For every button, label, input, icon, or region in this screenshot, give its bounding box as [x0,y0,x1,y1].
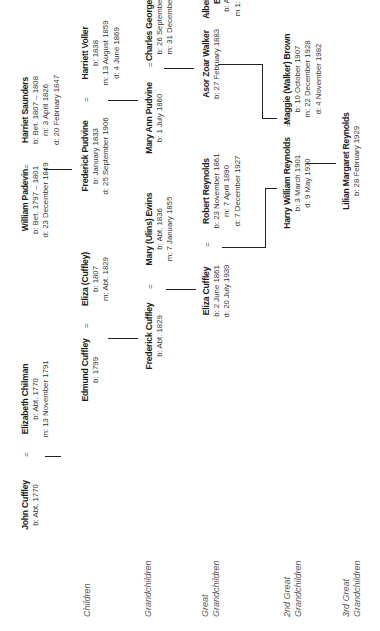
connector-line [222,247,266,248]
connector-line [262,64,263,119]
person-eliza-cuffley-elder[interactable]: Eliza (Cuffley) b: 1807 m: Abt. 1829 [80,239,112,319]
connector-line [262,118,277,119]
person-marriage: m: 13 August 1859 [101,13,112,93]
person-birth: b: 1807 [91,239,102,319]
person-name: Mary Ann Pudvine [144,73,155,163]
person-birth: b: 1 July 1860 [155,73,166,163]
family-tree-chart: Children Grandchildren Great Grandchildr… [0,0,380,631]
connector-line [108,100,138,101]
person-name: Edmund Cuffley [80,335,91,405]
person-marriage: m: 7 January 1855 [165,179,176,279]
person-robert-reynolds[interactable]: Robert Reynolds b: 23 November 1861 m: 7… [201,141,243,241]
person-harriet-saunders[interactable]: Harriet Saunders b: Bet. 1807 – 1808 m: … [20,65,62,155]
person-name: Frederick Pudvine [80,106,91,206]
person-edmund-cuffley[interactable]: Edmund Cuffley b: 1799 [80,335,101,405]
person-albert-edward-brown[interactable]: Albert Edward Brown b: Abt. 1880 m 1: Ab… [201,0,243,31]
person-marriage: m: 3 April 1826 [41,65,52,155]
person-birth: b: 2 June 1861 [212,251,223,331]
person-death: d: 20 July 1939 [222,251,233,331]
person-john-cuffley[interactable]: John Cuffley b: Abt. 1770 [20,465,41,545]
person-marriage: m 1: Abt. 1904 [233,0,244,31]
person-death: d: 4 November 1982 [314,9,325,149]
person-birth: b: 1799 [91,335,102,405]
connector-line [218,64,263,65]
person-birth: b: Abt. 1770 [31,465,42,545]
person-eliza-cuffley[interactable]: Eliza Cuffley b: 2 June 1861 d: 20 July … [201,251,233,331]
person-birth: b: 28 February 1929 [352,96,363,226]
person-birth: b: 23 November 1861 [212,141,223,241]
generation-label-grandchildren: Grandchildren [143,560,154,617]
person-frederick-cuffley[interactable]: Frederick Cuffley b: Abt. 1829 [144,291,165,381]
marriage-symbol: = [22,164,31,169]
person-birth: b: Abt. 1880 [222,0,233,31]
person-marriage: m: 13 November 1791 [41,349,52,449]
person-birth: b: January 1833 [91,106,102,206]
connector-line [306,163,336,164]
marriage-symbol: = [82,97,91,102]
person-mary-ann-pudvine[interactable]: Mary Ann Pudvine b: 1 July 1860 [144,73,165,163]
person-marriage: m: 7 April 1890 [222,141,233,241]
person-death: d: 25 September 1906 [101,106,112,206]
connector-line [265,188,266,248]
marriage-symbol: = [203,242,212,247]
generation-label-2nd-great-grandchildren: 2nd Great Grandchildren [282,547,304,617]
person-birth: b: Bet. 1797 – 1801 [31,155,42,245]
person-birth: b: 1838 [91,13,102,93]
person-name: Albert Edward [201,0,212,31]
person-name: Frederick Cuffley [144,291,155,381]
person-marriage: m: 22 December 1928 [303,9,314,149]
person-birth: b: 10 October 1907 [293,9,304,149]
person-name-cont: Brown [212,0,223,31]
connector-line [44,169,72,170]
person-name: Harriet Saunders [20,65,31,155]
connector-line [265,188,277,189]
person-harriett-voller[interactable]: Harriett Voller b: 1838 m: 13 August 185… [80,13,122,93]
person-marriage: m: 31 December 1882 [165,0,176,71]
person-charles-george-walker[interactable]: Charles George Walker b: 26 September 18… [144,0,176,71]
person-death: d: 20 February 1847 [52,65,63,155]
person-name: Lilian Margaret Reynolds [341,96,352,226]
person-name: Eliza Cuffley [201,251,212,331]
person-elizabeth-chilman[interactable]: Elizabeth Chilman b: Abt. 1770 m: 13 Nov… [20,349,52,449]
person-name: Maggie (Walker) Brown [282,9,293,149]
person-birth: b: Abt. 1770 [31,349,42,449]
person-birth: b: Abt. 1836 [155,179,166,279]
person-name: Charles George Walker [144,0,155,71]
person-birth: b: Abt. 1829 [155,291,166,381]
person-death: d: 7 December 1927 [233,141,244,241]
generation-label-great-grandchildren: Great Grandchildren [200,547,222,617]
connector-line [108,338,138,339]
marriage-symbol: = [146,284,155,289]
connector-line [164,68,194,69]
person-birth: b: 26 September 1860 [155,0,166,71]
generation-label-children: Children [82,583,93,617]
person-name: Mary (Ulins) Ewins [144,179,155,279]
marriage-symbol: = [82,323,91,328]
connector-line [166,289,196,290]
person-name: Eliza (Cuffley) [80,239,91,319]
person-frederick-pudvine[interactable]: Frederick Pudvine b: January 1833 d: 25 … [80,106,112,206]
person-mary-ewins[interactable]: Mary (Ulins) Ewins b: Abt. 1836 m: 7 Jan… [144,179,176,279]
person-name: John Cuffley [20,465,31,545]
connector-line [45,456,61,457]
person-marriage: m: Abt. 1829 [101,239,112,319]
person-lilian-margaret-reynolds[interactable]: Lilian Margaret Reynolds b: 28 February … [341,96,362,226]
person-birth: b: Bet. 1807 – 1808 [31,65,42,155]
generation-label-3rd-great-grandchildren: 3rd Great Grandchildren [341,547,363,617]
person-name: Asor Zoar Walker [201,19,212,109]
person-name: Robert Reynolds [201,141,212,241]
person-death: d: 4 June 1869 [112,13,123,93]
person-name: Harriett Voller [80,13,91,93]
person-name: Elizabeth Chilman [20,349,31,449]
marriage-symbol: = [22,452,31,457]
person-maggie-brown[interactable]: Maggie (Walker) Brown b: 10 October 1907… [282,9,324,149]
